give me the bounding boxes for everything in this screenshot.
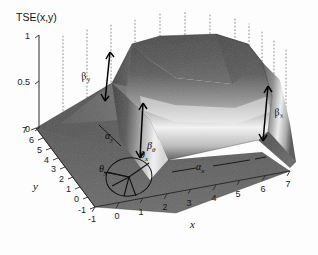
z-axis: [35, 35, 39, 131]
y-tick-0: 0: [74, 194, 79, 204]
x-tick-3: 3: [186, 198, 191, 208]
x-tick-5: 5: [235, 189, 240, 199]
y-tick-1: 1: [66, 184, 71, 194]
z-tick-05: 0.5: [17, 77, 30, 87]
y-axis-title: y: [32, 180, 38, 192]
z-tick-1: 1: [25, 31, 30, 41]
annotation-beta-y-label: βy: [79, 69, 92, 85]
surface-mesh: [36, 34, 296, 213]
z-tick-labels: 1 0.5 0: [17, 31, 30, 134]
y-tick-m1: -1: [78, 205, 86, 215]
x-tick-2: 2: [162, 202, 167, 212]
y-tick-2: 2: [59, 174, 64, 184]
figure-3d-surface-plot: 1 0.5 0 TSE(x,y) 7 6 5 4 3 2 1 0 -: [0, 0, 318, 255]
y-tick-5: 5: [37, 145, 42, 155]
x-tick-m1: -1: [88, 214, 96, 224]
y-tick-7: 7: [22, 125, 27, 135]
x-tick-6: 6: [260, 184, 265, 194]
z-axis-title: TSE(x,y): [16, 11, 57, 23]
x-axis-title: x: [189, 218, 195, 230]
x-tick-1: 1: [138, 207, 143, 217]
y-tick-4: 4: [44, 155, 49, 165]
surface-plot-svg: 1 0.5 0 TSE(x,y) 7 6 5 4 3 2 1 0 -: [0, 0, 318, 255]
x-tick-0: 0: [114, 211, 119, 221]
x-tick-7: 7: [285, 179, 290, 189]
y-tick-3: 3: [51, 164, 56, 174]
y-tick-6: 6: [29, 135, 34, 145]
x-tick-4: 4: [211, 193, 216, 203]
